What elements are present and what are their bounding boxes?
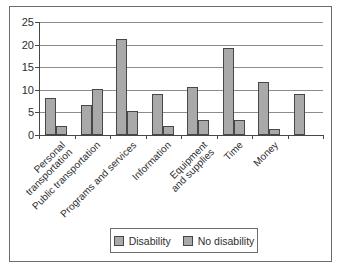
bar-disability: [258, 82, 269, 135]
x-axis-tick: [146, 135, 147, 139]
y-axis-tick-label: 20: [10, 40, 34, 50]
y-axis-line: [39, 22, 40, 139]
bar-disability: [152, 94, 163, 135]
y-axis-tick-label: 0: [10, 130, 34, 140]
legend: Disability No disability: [110, 228, 258, 253]
bar-disability: [116, 39, 127, 135]
bar-disability: [187, 87, 198, 135]
x-axis-tick: [217, 135, 218, 139]
bar-no-disability: [127, 111, 138, 135]
bar-disability: [81, 105, 92, 135]
gridline: [39, 22, 323, 23]
gridline: [39, 90, 323, 91]
bar-disability: [294, 94, 305, 135]
x-axis-category-label: Time: [222, 140, 245, 163]
legend-swatch-disability-icon: [114, 236, 124, 246]
y-axis-tick-label: 10: [10, 85, 34, 95]
legend-item-disability: Disability: [114, 235, 171, 247]
x-axis-tick: [181, 135, 182, 139]
gridline: [39, 67, 323, 68]
figure: 0510152025Personal transportationPublic …: [0, 0, 344, 271]
legend-label-disability: Disability: [129, 235, 171, 247]
x-axis-tick: [288, 135, 289, 139]
legend-swatch-no-disability-icon: [183, 236, 193, 246]
y-axis-tick-label: 15: [10, 62, 34, 72]
legend-label-no-disability: No disability: [198, 235, 255, 247]
x-axis-tick: [110, 135, 111, 139]
bar-no-disability: [92, 89, 103, 135]
y-axis-tick-label: 5: [10, 107, 34, 117]
x-axis-tick: [39, 135, 40, 139]
bar-no-disability: [56, 126, 67, 135]
legend-item-no-disability: No disability: [183, 235, 255, 247]
x-axis-tick: [323, 135, 324, 139]
bar-disability: [223, 48, 234, 135]
bar-disability: [45, 98, 56, 135]
bar-no-disability: [234, 120, 245, 135]
bar-no-disability: [163, 126, 174, 135]
bar-no-disability: [198, 120, 209, 135]
x-axis-tick: [252, 135, 253, 139]
x-axis-tick: [75, 135, 76, 139]
x-axis-category-label: Money: [252, 140, 280, 168]
y-axis-tick-label: 25: [10, 17, 34, 27]
gridline: [39, 45, 323, 46]
